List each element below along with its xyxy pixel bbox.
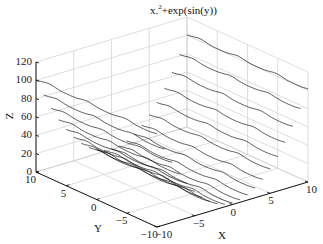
chart-title: x.2+exp(sin(y)) xyxy=(150,3,217,16)
x-tick xyxy=(154,226,157,227)
y-tick xyxy=(127,212,130,213)
x-tick xyxy=(305,181,308,182)
x-tick-label: −10 xyxy=(155,229,172,240)
y-tick xyxy=(97,199,100,200)
series-line xyxy=(179,55,300,109)
y-tick-label: −5 xyxy=(116,215,128,226)
series-line xyxy=(36,80,157,134)
data-curves xyxy=(36,35,308,205)
plot-canvas xyxy=(0,0,323,244)
series-line xyxy=(112,149,233,203)
z-tick-label: 80 xyxy=(21,93,32,104)
series-line xyxy=(96,150,217,204)
y-tick-label: 0 xyxy=(91,202,97,213)
x-tick-label: 0 xyxy=(231,207,237,218)
y-tick xyxy=(66,185,69,186)
z-tick-label: 100 xyxy=(16,74,33,85)
x-tick xyxy=(267,192,270,193)
series-line xyxy=(44,95,165,149)
x-axis-label: X xyxy=(218,229,226,241)
x-tick-label: 5 xyxy=(268,195,274,206)
y-axis-label: Y xyxy=(94,222,102,234)
z-tick-label: 120 xyxy=(16,56,33,67)
series-line xyxy=(164,88,285,142)
z-tick-label: 20 xyxy=(21,148,32,159)
grid-lines xyxy=(36,17,308,227)
y-tick-label: 10 xyxy=(25,174,36,185)
z-axis-label: Z xyxy=(3,113,15,120)
series-line xyxy=(81,143,202,197)
y-tick-label: 5 xyxy=(61,188,67,199)
x-tick xyxy=(230,204,233,205)
x-tick-label: −5 xyxy=(193,218,205,229)
z-tick-label: 60 xyxy=(21,111,32,122)
x-tick-label: 10 xyxy=(306,184,317,195)
x-tick xyxy=(192,215,195,216)
z-tick-label: 40 xyxy=(21,129,32,140)
y-tick xyxy=(157,226,160,227)
